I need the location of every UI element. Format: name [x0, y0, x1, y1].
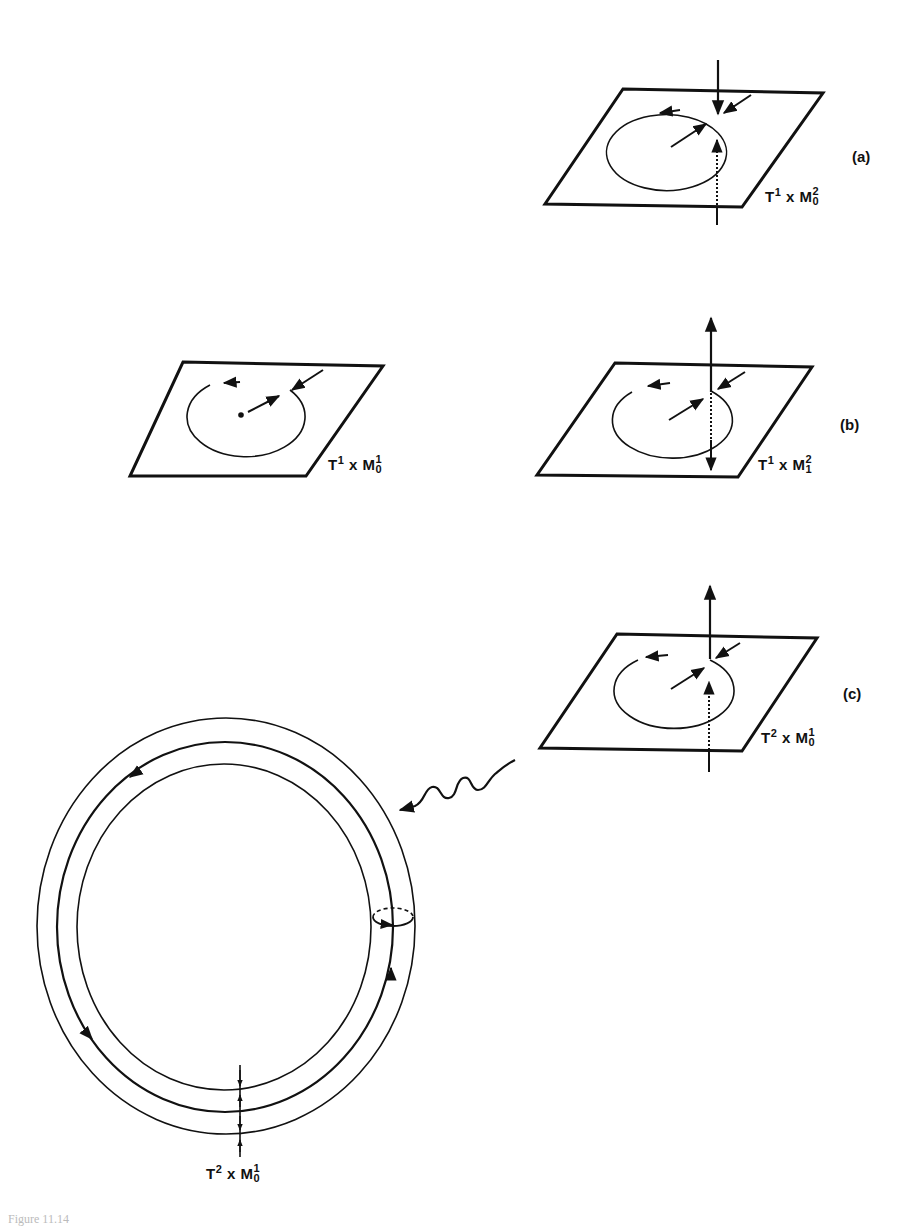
- torus-diagram: [37, 718, 415, 1157]
- manifold-label-torus: T2 x M10: [206, 1163, 260, 1185]
- manifold-label-a: T1 x M20: [765, 186, 819, 208]
- inner-ring: [77, 764, 371, 1090]
- middle-ring: [57, 742, 393, 1112]
- figure-caption: Figure 11.14: [8, 1212, 69, 1227]
- manifold-label-b-right: T1 x M21: [758, 454, 812, 476]
- panel-a-label: (a): [852, 148, 870, 165]
- outer-ring: [37, 718, 415, 1134]
- manifold-label-c: T2 x M10: [761, 727, 815, 749]
- orbit-a: [607, 116, 727, 191]
- orbit-c: [614, 660, 734, 728]
- panel-c-label: (c): [843, 685, 861, 702]
- panel-b-label: (b): [840, 416, 859, 433]
- orbit-b-left: [187, 385, 305, 457]
- fixed-point: [238, 412, 244, 418]
- manifold-label-b-left: T1 x M10: [328, 454, 382, 476]
- orbit-b-right: [612, 391, 732, 458]
- wavy-arrow: [400, 760, 515, 810]
- figure-canvas: [0, 0, 900, 1227]
